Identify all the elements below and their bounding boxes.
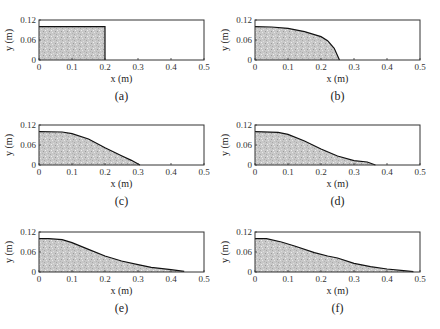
x-tick-label: 0 — [253, 274, 258, 284]
y-tick-label: 0.12 — [236, 227, 252, 237]
x-tick-label: 0.2 — [315, 274, 326, 284]
x-tick-label: 0.1 — [282, 274, 293, 284]
y-tick-label: 0.06 — [236, 247, 252, 257]
y-tick-label: 0 — [248, 267, 253, 277]
x-tick-label: 0.5 — [414, 274, 426, 284]
subplot-caption: (f) — [332, 301, 344, 315]
plot-area-f: 00.10.20.30.40.500.060.12x (m)y (m)(f) — [0, 0, 440, 329]
granular-fill — [255, 239, 413, 272]
x-tick-label: 0.3 — [348, 274, 360, 284]
x-axis-label: x (m) — [327, 285, 349, 297]
y-axis-label: y (m) — [219, 241, 231, 263]
x-tick-label: 0.4 — [381, 274, 393, 284]
